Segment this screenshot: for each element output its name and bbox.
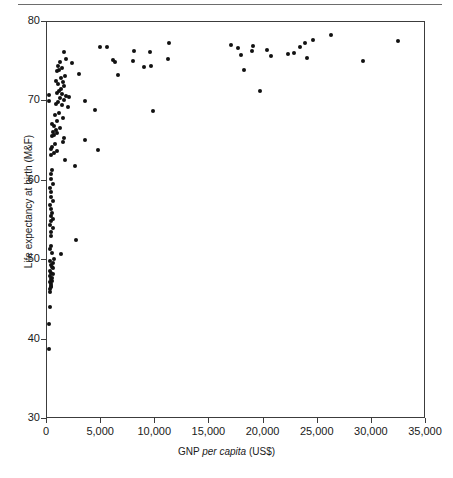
data-point [116,73,120,77]
data-point [60,66,64,70]
data-point [149,64,153,68]
data-point [55,149,59,153]
data-point [73,164,77,168]
data-point [74,238,78,242]
data-point [63,74,67,78]
data-point [56,100,60,104]
data-point [269,54,273,58]
data-point [96,148,100,152]
data-point [53,113,57,117]
data-point [64,94,68,98]
data-point [229,43,233,47]
data-points-layer [47,22,424,417]
x-tick-label: 20,000 [233,426,293,437]
y-axis-title: Life expectancy at birth (M&F) [23,112,34,292]
x-tick-label: 10,000 [124,426,184,437]
y-tick-label: 80 [0,15,40,26]
data-point [55,119,59,123]
data-point [51,226,55,230]
data-point [47,347,51,351]
data-point [132,49,136,53]
data-point [48,305,52,309]
data-point [49,244,53,248]
y-tick-label: 40 [0,333,40,344]
y-tick-label: 50 [0,253,40,264]
data-point [329,33,333,37]
data-point [63,158,67,162]
x-tick-label: 30,000 [341,426,401,437]
x-tick-label: 25,000 [287,426,347,437]
data-point [236,46,240,50]
x-tick-mark [46,418,47,423]
data-point [50,168,54,172]
data-point [53,142,57,146]
data-point [303,41,307,45]
data-point [58,126,62,130]
data-point [51,199,55,203]
data-point [47,93,51,97]
data-point [58,60,62,64]
data-point [61,140,65,144]
x-tick-mark [263,418,264,423]
data-point [167,41,171,45]
data-point [148,50,152,54]
data-point [49,230,53,234]
x-axis-title-post: (US$) [246,446,275,457]
data-point [51,182,55,186]
data-point [105,45,109,49]
data-point [59,252,63,256]
data-point [52,257,56,261]
data-point [142,65,146,69]
data-point [361,59,365,63]
x-axis-title-pre: GNP [178,446,202,457]
data-point [62,136,66,140]
data-point [49,207,53,211]
data-point [242,68,246,72]
data-point [49,190,53,194]
plot-area [46,21,425,418]
data-point [62,84,66,88]
data-point [49,177,53,181]
x-axis-title-italic: per capita [202,446,246,457]
data-point [292,51,296,55]
y-tick-label: 30 [0,412,40,423]
data-point [77,72,81,76]
data-point [62,50,66,54]
data-point [305,56,309,60]
data-point [298,45,302,49]
data-point [131,59,135,63]
data-point [286,52,290,56]
data-point [64,57,68,61]
y-tick-label: 70 [0,94,40,105]
data-point [396,39,400,43]
data-point [250,49,254,53]
x-tick-label: 0 [16,426,76,437]
data-point [258,89,262,93]
data-point [54,128,58,132]
data-point [66,105,70,109]
data-point [48,203,52,207]
data-point [151,109,155,113]
x-tick-mark [100,418,101,423]
top-horizontal-rule [18,4,442,5]
x-tick-label: 35,000 [395,426,453,437]
data-point [54,79,58,83]
scatter-plot-figure: 304050607080 05,00010,00015,00020,00025,… [0,0,453,478]
data-point [47,99,51,103]
y-tick-label: 60 [0,174,40,185]
x-tick-mark [208,418,209,423]
data-point [98,45,102,49]
data-point [311,38,315,42]
data-point [70,61,74,65]
x-tick-mark [371,418,372,423]
data-point [166,57,170,61]
data-point [62,98,66,102]
data-point [49,234,53,238]
x-axis-title: GNP per capita (US$) [0,446,453,457]
x-tick-mark [154,418,155,423]
data-point [251,44,255,48]
x-tick-mark [317,418,318,423]
x-tick-label: 5,000 [70,426,130,437]
data-point [83,99,87,103]
data-point [50,211,54,215]
